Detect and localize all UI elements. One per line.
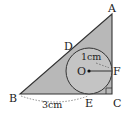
be-length-label: 3cm [42,99,62,110]
label-a: A [107,2,117,15]
label-c: C [113,97,121,110]
label-b: B [9,92,17,105]
center-point-o [87,69,90,72]
label-o: O [77,65,86,78]
geometry-diagram: A B C D E F O 1cm 3cm [0,0,130,116]
label-d: D [64,40,73,53]
radius-length-label: 1cm [81,51,101,62]
label-e: E [85,97,93,110]
label-f: F [113,65,121,78]
